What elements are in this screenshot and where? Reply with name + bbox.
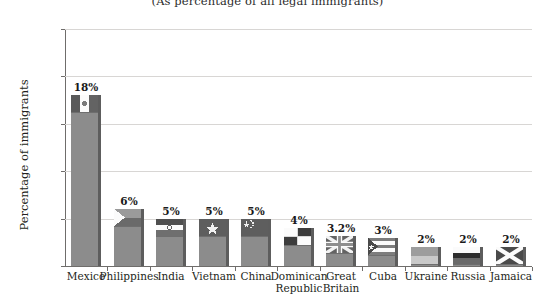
vietnam-flag <box>199 219 226 237</box>
great-britain-flag <box>326 236 353 254</box>
y-axis-title: Percentage of immigrants <box>17 65 31 245</box>
bar-value-label: 18% <box>59 81 113 93</box>
bar <box>284 228 314 266</box>
bar <box>326 236 356 266</box>
bar <box>453 247 483 266</box>
chart-subtitle: (As percentage of all legal immigrants) <box>0 0 535 8</box>
bar <box>411 247 441 266</box>
bar <box>199 219 229 266</box>
x-tick-label: Jamaica <box>480 271 535 283</box>
y-tick-mark <box>61 171 65 172</box>
cuba-flag <box>368 238 395 256</box>
y-tick-mark <box>61 29 65 30</box>
philippines-flag <box>114 209 141 227</box>
china-flag <box>241 219 268 237</box>
gridline <box>65 171 532 172</box>
gridline <box>65 29 532 30</box>
bar <box>71 95 101 266</box>
mexico-flag <box>71 95 98 113</box>
russia-flag <box>453 247 480 265</box>
gridline <box>65 124 532 125</box>
bar <box>156 219 186 266</box>
dominican-republic-flag <box>284 228 311 246</box>
india-flag <box>156 219 183 237</box>
jamaica-flag <box>496 247 523 265</box>
x-axis-line <box>65 266 532 267</box>
bar <box>496 247 526 266</box>
bar <box>241 219 271 266</box>
bar-value-label: 2% <box>484 233 535 245</box>
bar <box>114 209 144 266</box>
ukraine-flag <box>411 247 438 265</box>
y-tick-mark <box>61 124 65 125</box>
x-tick-mark <box>532 267 533 271</box>
y-tick-mark <box>61 76 65 77</box>
y-tick-mark <box>61 219 65 220</box>
y-tick-mark <box>61 266 65 267</box>
bar-fill <box>71 95 95 266</box>
bar <box>368 238 398 266</box>
gridline <box>65 76 532 77</box>
